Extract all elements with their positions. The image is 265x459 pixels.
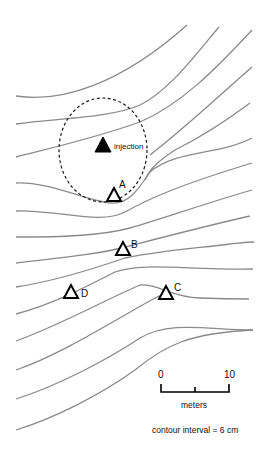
contour-line — [16, 330, 253, 430]
well-label-B: B — [131, 239, 138, 250]
contour-line — [16, 327, 253, 399]
contour-line — [16, 27, 219, 124]
contour-lines — [16, 25, 254, 430]
well-label-A: A — [119, 179, 126, 190]
scale-units-label: meters — [181, 400, 207, 410]
contour-line — [16, 267, 253, 314]
contour-line — [16, 25, 187, 97]
contour-line — [16, 30, 252, 157]
scale-start-label: 0 — [158, 369, 164, 380]
injection-well-icon — [95, 137, 111, 152]
scale-bar: 0 10 meters — [158, 369, 236, 410]
well-label-D: D — [81, 288, 88, 299]
scale-end-label: 10 — [224, 369, 236, 380]
well-label-C: C — [174, 282, 181, 293]
contour-line — [150, 67, 252, 155]
contour-interval-label: contour interval = 6 cm — [152, 425, 238, 435]
injection-well: injection — [95, 137, 143, 152]
contour-line — [16, 285, 249, 341]
contour-line — [16, 163, 252, 217]
well-C: C — [159, 282, 181, 299]
injection-label: injection — [114, 142, 143, 151]
well-A: A — [107, 179, 126, 201]
contour-map: injection A B C D 0 10 meters contour in… — [0, 0, 265, 459]
scale-bar-line — [161, 384, 229, 392]
